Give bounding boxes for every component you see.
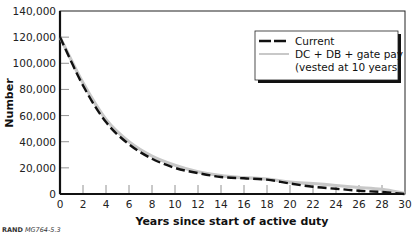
x-tick-label: 28 <box>375 198 388 210</box>
y-tick-label: 40,000 <box>19 136 56 148</box>
x-tick-label: 24 <box>329 198 343 210</box>
source-id: MG764-5.3 <box>25 226 61 234</box>
x-tick-label: 2 <box>80 198 87 210</box>
x-tick-label: 10 <box>168 198 181 210</box>
y-axis-title: Number <box>3 78 16 128</box>
x-tick-label: 16 <box>237 198 251 210</box>
legend-current-label: Current <box>295 35 334 47</box>
x-tick-label: 6 <box>126 198 133 210</box>
y-tick-label: 120,000 <box>13 31 56 43</box>
y-tick-label: 20,000 <box>19 162 56 174</box>
y-tick-label: 0 <box>49 188 56 200</box>
x-tick-label: 4 <box>103 198 110 210</box>
x-tick-label: 8 <box>149 198 156 210</box>
legend-dc-label-line2: (vested at 10 years) <box>295 61 401 73</box>
x-tick-label: 22 <box>306 198 319 210</box>
x-tick-label: 30 <box>398 198 411 210</box>
y-tick-label: 80,000 <box>19 83 56 95</box>
legend: Current DC + DB + gate pay (vested at 10… <box>255 31 403 83</box>
x-axis-title: Years since start of active duty <box>134 215 328 228</box>
x-tick-label: 14 <box>214 198 228 210</box>
x-tick-label: 20 <box>283 198 296 210</box>
x-tick-label: 26 <box>352 198 366 210</box>
x-tick-label: 18 <box>260 198 273 210</box>
y-tick-label: 140,000 <box>13 5 56 17</box>
y-tick-label: 60,000 <box>19 110 56 122</box>
source-note: RAND MG764-5.3 <box>2 226 61 234</box>
x-tick-label: 0 <box>57 198 64 210</box>
y-tick-label: 100,000 <box>13 57 56 69</box>
source-org: RAND <box>2 226 23 234</box>
line-chart: 020,00040,00060,00080,000100,000120,0001… <box>0 0 419 238</box>
x-tick-label: 12 <box>191 198 204 210</box>
legend-dc-label-line1: DC + DB + gate pay <box>295 48 403 60</box>
